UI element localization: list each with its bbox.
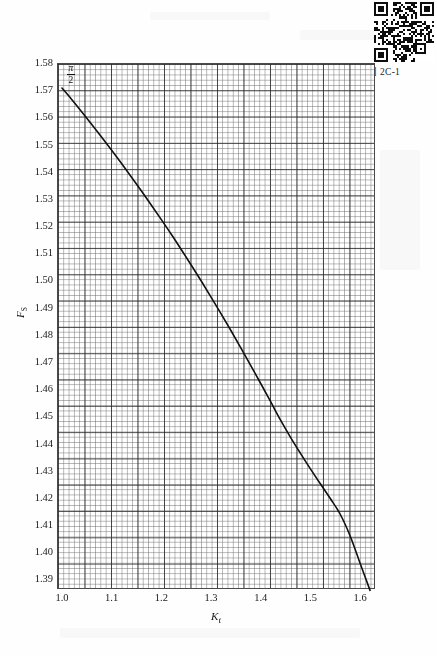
x-tick-label: 1.5 [293,593,327,604]
y-tick-label: 1.41 [19,520,53,531]
y-tick-label: 1.39 [19,574,53,585]
x-axis-label: Kt [211,610,221,625]
x-tick-label: 1.1 [95,593,129,604]
x-axis-label-subscript: t [218,615,221,625]
plot-area [57,63,375,589]
y-tick-label: 1.52 [19,221,53,232]
y-tick-label: 1.53 [19,194,53,205]
x-tick-label: 1.6 [343,593,377,604]
y-tick-label: 1.56 [19,112,53,123]
y-tick-label: 1.43 [19,466,53,477]
y-tick-label: 1.45 [19,411,53,422]
pi-denominator: 2 [64,75,78,85]
chart: 1.581.571.561.551.541.531.521.511.501.49… [0,0,437,656]
x-tick-label: 1.4 [244,593,278,604]
pi-over-two-annotation: π 2 [64,64,78,85]
y-tick-label: 1.58 [19,58,53,69]
y-axis-label: FS [14,307,29,318]
y-tick-label: 1.57 [19,85,53,96]
y-axis-label-text: F [14,311,26,318]
y-tick-label: 1.50 [19,275,53,286]
y-tick-label: 1.47 [19,357,53,368]
x-tick-label: 1.0 [45,593,79,604]
y-tick-label: 1.55 [19,140,53,151]
y-tick-label: 1.42 [19,493,53,504]
x-tick-label: 1.2 [144,593,178,604]
y-axis-label-subscript: S [20,307,29,311]
y-tick-label: 1.40 [19,547,53,558]
pi-numerator: π [64,64,78,74]
y-tick-label: 1.48 [19,330,53,341]
y-tick-label: 1.54 [19,167,53,178]
y-tick-label: 1.51 [19,248,53,259]
x-tick-label: 1.3 [194,593,228,604]
y-tick-label: 1.44 [19,439,53,450]
y-tick-label: 1.46 [19,384,53,395]
